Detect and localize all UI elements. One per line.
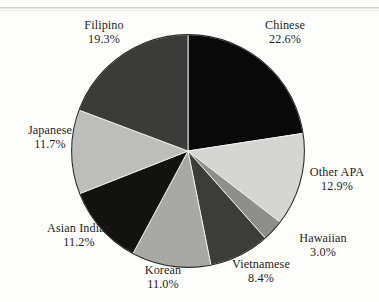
- slice-label-vietnamese-percent: 8.4%: [213, 272, 309, 286]
- slice-label-asian-indian: Asian Indian 11.2%: [29, 222, 129, 249]
- slice-label-other-apa-percent: 12.9%: [296, 180, 378, 194]
- slice-label-hawaiian-name: Hawaiian: [281, 232, 365, 246]
- page-rule-divider-secondary: [0, 10, 379, 11]
- slice-label-hawaiian: Hawaiian 3.0%: [281, 232, 365, 259]
- slice-label-filipino: Filipino 19.3%: [62, 19, 146, 46]
- slice-label-other-apa-name: Other APA: [296, 166, 378, 180]
- page-rule-divider: [0, 7, 379, 9]
- slice-label-vietnamese-name: Vietnamese: [213, 258, 309, 272]
- slice-label-asian-indian-name: Asian Indian: [29, 222, 129, 236]
- slice-label-korean-name: Korean: [125, 264, 201, 278]
- pie-slice-chinese: [188, 35, 303, 151]
- slice-label-vietnamese: Vietnamese 8.4%: [213, 258, 309, 285]
- slice-label-korean: Korean 11.0%: [125, 264, 201, 291]
- slice-label-asian-indian-percent: 11.2%: [29, 236, 129, 250]
- slice-label-chinese-percent: 22.6%: [243, 33, 327, 47]
- slice-label-chinese-name: Chinese: [243, 19, 327, 33]
- slice-label-other-apa: Other APA 12.9%: [296, 166, 378, 193]
- slice-label-korean-percent: 11.0%: [125, 278, 201, 292]
- slice-label-filipino-percent: 19.3%: [62, 33, 146, 47]
- slice-label-filipino-name: Filipino: [62, 19, 146, 33]
- slice-label-japanese-percent: 11.7%: [8, 138, 92, 152]
- chart-page: Filipino 19.3% Chinese 22.6% Japanese 11…: [0, 0, 379, 302]
- slice-label-chinese: Chinese 22.6%: [243, 19, 327, 46]
- slice-label-japanese: Japanese 11.7%: [8, 124, 92, 151]
- slice-label-japanese-name: Japanese: [8, 124, 92, 138]
